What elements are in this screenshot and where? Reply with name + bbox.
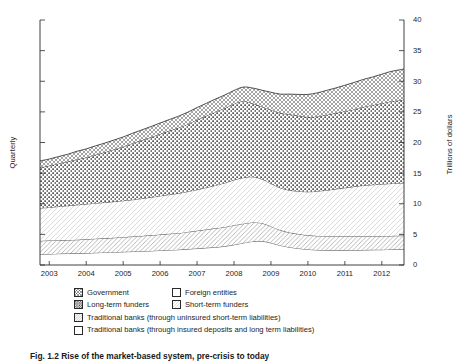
x-tick-label-2009: 2009 bbox=[261, 269, 280, 278]
area-layers bbox=[40, 69, 404, 265]
x-tick-label-2012: 2012 bbox=[372, 269, 391, 278]
figure-container: Quarterly Trillions of dollars 051015202… bbox=[0, 0, 468, 361]
y-tick-label-40: 40 bbox=[413, 15, 421, 24]
chart-legend: GovernmentForeign entitiesLong-term fund… bbox=[74, 286, 404, 336]
figure-caption: Fig. 1.2 Rise of the market-based system… bbox=[30, 351, 269, 361]
legend-label: Traditional banks (through uninsured sho… bbox=[87, 314, 280, 322]
y-tick-label-0: 0 bbox=[413, 260, 417, 269]
legend-swatch-icon bbox=[74, 288, 83, 297]
legend-swatch-icon bbox=[172, 288, 181, 297]
legend-item-traditional-banks-through-uninsured-short-term-liabilities[interactable]: Traditional banks (through uninsured sho… bbox=[74, 313, 280, 322]
legend-item-long-term-funders[interactable]: Long-term funders bbox=[74, 300, 172, 309]
legend-swatch-icon bbox=[74, 313, 83, 322]
x-tick-label-2007: 2007 bbox=[188, 269, 207, 278]
x-tick-label-2010: 2010 bbox=[298, 269, 317, 278]
x-tick-label-2008: 2008 bbox=[225, 269, 244, 278]
y-tick-label-25: 25 bbox=[413, 107, 421, 116]
y-tick-label-10: 10 bbox=[413, 199, 421, 208]
legend-item-short-term-funders[interactable]: Short-term funders bbox=[172, 300, 248, 309]
legend-row-1: Long-term fundersShort-term funders bbox=[74, 299, 404, 312]
legend-swatch-icon bbox=[74, 300, 83, 309]
legend-item-government[interactable]: Government bbox=[74, 288, 172, 297]
legend-label: Short-term funders bbox=[185, 301, 248, 309]
legend-swatch-icon bbox=[74, 326, 83, 335]
left-axis-title: Quarterly bbox=[8, 118, 17, 188]
legend-label: Government bbox=[87, 289, 129, 297]
legend-label: Traditional banks (through insured depos… bbox=[87, 326, 314, 334]
legend-label: Long-term funders bbox=[87, 301, 149, 309]
x-tick-label-2011: 2011 bbox=[335, 269, 354, 278]
y-tick-label-20: 20 bbox=[413, 138, 421, 147]
y-tick-label-30: 30 bbox=[413, 77, 421, 86]
x-tick-label-2003: 2003 bbox=[40, 269, 59, 278]
right-axis-title: Trillions of dollars bbox=[445, 100, 454, 190]
x-tick-label-2004: 2004 bbox=[77, 269, 96, 278]
legend-row-2: Traditional banks (through uninsured sho… bbox=[74, 311, 404, 324]
x-tick-label-2006: 2006 bbox=[151, 269, 170, 278]
y-tick-label-5: 5 bbox=[413, 230, 417, 239]
x-tick-label-2005: 2005 bbox=[114, 269, 133, 278]
legend-row-0: GovernmentForeign entities bbox=[74, 286, 404, 299]
legend-row-3: Traditional banks (through insured depos… bbox=[74, 324, 404, 337]
y-tick-label-35: 35 bbox=[413, 46, 421, 55]
legend-swatch-icon bbox=[172, 300, 181, 309]
legend-item-traditional-banks-through-insured-deposits-and-long-term-liabilities[interactable]: Traditional banks (through insured depos… bbox=[74, 326, 314, 335]
legend-item-foreign-entities[interactable]: Foreign entities bbox=[172, 288, 237, 297]
y-tick-label-15: 15 bbox=[413, 169, 421, 178]
legend-label: Foreign entities bbox=[185, 289, 237, 297]
